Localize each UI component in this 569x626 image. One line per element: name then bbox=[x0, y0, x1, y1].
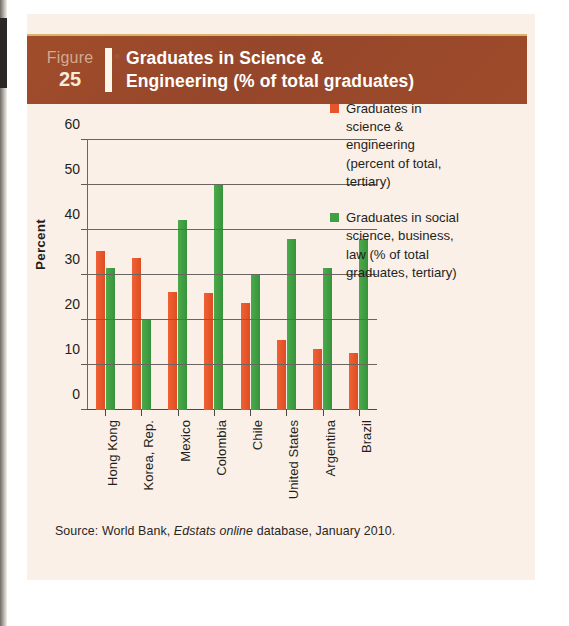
bar bbox=[132, 258, 141, 410]
figure-title: Graduates in Science & Engineering (% of… bbox=[126, 47, 414, 93]
x-label-cell: Argentina bbox=[305, 416, 341, 526]
x-tick-label: United States bbox=[286, 420, 301, 499]
bar-group bbox=[196, 140, 232, 410]
bar bbox=[142, 320, 151, 410]
legend-swatch bbox=[330, 104, 339, 113]
x-label-cell: Colombia bbox=[196, 416, 232, 526]
x-label-cell: Hong Kong bbox=[87, 416, 123, 526]
legend-item[interactable]: Graduates inscience &engineering(percent… bbox=[330, 100, 505, 191]
y-tick-label: 30 bbox=[64, 251, 80, 267]
legend-item[interactable]: Graduates in socialscience, business,law… bbox=[330, 209, 505, 282]
bar-group bbox=[268, 140, 304, 410]
x-tick-label: Chile bbox=[250, 420, 265, 450]
bar bbox=[204, 293, 213, 410]
x-axis-labels: Hong KongKorea, Rep.MexicoColombiaChileU… bbox=[87, 416, 377, 526]
bar-group bbox=[123, 140, 159, 410]
x-tick-label: Mexico bbox=[178, 420, 193, 462]
legend-label-line: science, business, bbox=[346, 227, 459, 245]
bar bbox=[251, 275, 260, 410]
figure-label: Figure bbox=[35, 50, 105, 67]
figure-title-line-1: Graduates in Science & bbox=[126, 47, 414, 70]
y-tick-label: 10 bbox=[64, 341, 80, 357]
y-tick-mark bbox=[81, 229, 87, 230]
legend-label: Graduates inscience &engineering(percent… bbox=[346, 100, 441, 191]
x-label-cell: United States bbox=[268, 416, 304, 526]
y-tick-label: 20 bbox=[64, 296, 80, 312]
source-italic: Edstats online bbox=[174, 524, 253, 538]
bar bbox=[168, 292, 177, 410]
y-tick-mark bbox=[81, 409, 87, 410]
y-tick-label: 50 bbox=[64, 161, 80, 177]
bar-group bbox=[87, 140, 123, 410]
page-edge-artifact bbox=[0, 0, 7, 626]
chart-legend: Graduates inscience &engineering(percent… bbox=[330, 100, 505, 300]
bar bbox=[214, 185, 223, 410]
legend-label-line: science & bbox=[346, 118, 441, 136]
legend-label-line: engineering bbox=[346, 136, 441, 154]
x-label-cell: Chile bbox=[232, 416, 268, 526]
y-tick-label: 60 bbox=[64, 116, 80, 132]
page-edge-dark-mark bbox=[0, 18, 7, 88]
y-tick-mark bbox=[81, 319, 87, 320]
gridline bbox=[87, 364, 377, 365]
bar-group bbox=[232, 140, 268, 410]
bar bbox=[106, 268, 115, 410]
x-tick-label: Brazil bbox=[359, 420, 374, 453]
source-prefix: Source: World Bank, bbox=[55, 524, 170, 538]
x-label-cell: Korea, Rep. bbox=[123, 416, 159, 526]
bar-group bbox=[160, 140, 196, 410]
y-tick-label: 0 bbox=[72, 386, 80, 402]
legend-label-line: (percent of total, bbox=[346, 155, 441, 173]
legend-label-line: tertiary) bbox=[346, 173, 441, 191]
x-tick-label: Hong Kong bbox=[105, 420, 120, 486]
figure-number: 25 bbox=[35, 69, 105, 90]
x-tick-label: Korea, Rep. bbox=[141, 420, 156, 490]
gridline bbox=[87, 319, 377, 320]
figure-number-block: Figure 25 bbox=[27, 50, 105, 90]
legend-label-line: law (% of total bbox=[346, 246, 459, 264]
source-note: Source: World Bank, Edstats online datab… bbox=[55, 524, 495, 538]
y-tick-label: 40 bbox=[64, 206, 80, 222]
y-tick-mark bbox=[81, 274, 87, 275]
header-divider-rule bbox=[105, 48, 112, 92]
y-tick-mark bbox=[81, 364, 87, 365]
legend-label-line: Graduates in bbox=[346, 100, 441, 118]
bar bbox=[287, 239, 296, 410]
bar bbox=[178, 220, 187, 410]
source-suffix: database, January 2010. bbox=[257, 524, 396, 538]
x-tick-label: Argentina bbox=[323, 420, 338, 477]
y-tick-mark bbox=[81, 184, 87, 185]
y-axis-label: Percent bbox=[33, 219, 48, 270]
legend-swatch bbox=[330, 213, 339, 222]
x-label-cell: Brazil bbox=[341, 416, 377, 526]
x-tick-label: Colombia bbox=[214, 420, 229, 476]
bar bbox=[313, 349, 322, 410]
legend-label: Graduates in socialscience, business,law… bbox=[346, 209, 459, 282]
bar bbox=[349, 353, 358, 410]
x-label-cell: Mexico bbox=[160, 416, 196, 526]
legend-label-line: Graduates in social bbox=[346, 209, 459, 227]
legend-label-line: graduates, tertiary) bbox=[346, 264, 459, 282]
bar bbox=[277, 340, 286, 410]
figure-header-band: Figure 25 Graduates in Science & Enginee… bbox=[27, 34, 527, 104]
figure-title-line-2: Engineering (% of total graduates) bbox=[126, 70, 414, 93]
y-tick-mark bbox=[81, 139, 87, 140]
